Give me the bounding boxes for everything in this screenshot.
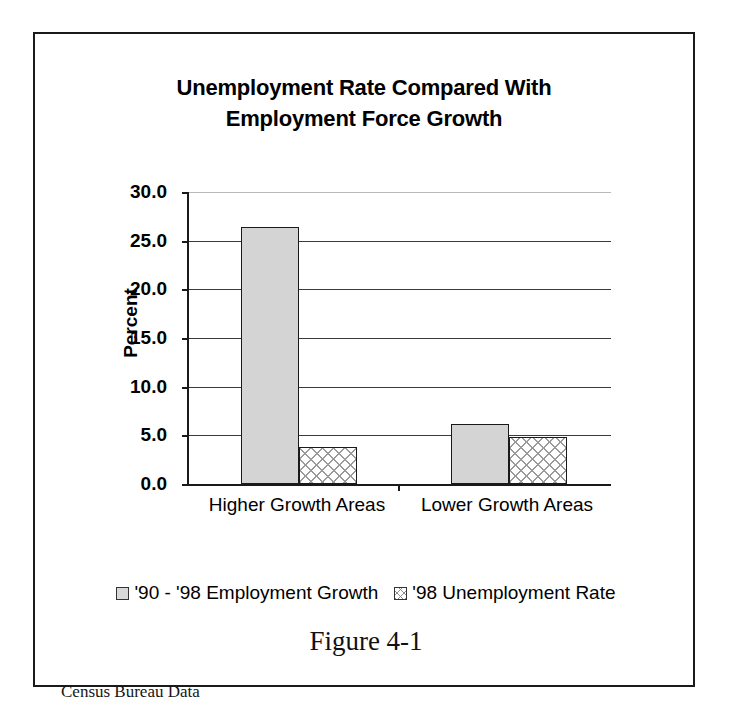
bar-higher-growth-employment[interactable] xyxy=(241,227,299,484)
x-tickmark-center xyxy=(398,484,400,491)
y-tick-label: 5.0 xyxy=(105,424,167,446)
x-axis-category-labels: Higher Growth Areas Lower Growth Areas xyxy=(187,494,611,524)
bar-higher-growth-unemployment[interactable] xyxy=(299,447,357,484)
figure-frame: Unemployment Rate Compared With Employme… xyxy=(33,32,695,687)
legend-swatch-icon xyxy=(116,587,129,600)
figure-caption: Figure 4-1 xyxy=(35,626,697,657)
y-tick-label: 25.0 xyxy=(105,230,167,252)
y-tick-label: 15.0 xyxy=(105,327,167,349)
source-note: Census Bureau Data xyxy=(61,682,200,702)
bar-lower-growth-unemployment[interactable] xyxy=(509,437,567,484)
y-tickmark xyxy=(182,387,189,389)
legend-entry-unemployment-rate[interactable]: '98 Unemployment Rate xyxy=(394,582,615,604)
x-category-label-lower: Lower Growth Areas xyxy=(421,494,593,516)
plot-wrapper: Percent 30.0 25.0 20.0 15.0 10.0 5.0 0.0 xyxy=(35,34,697,689)
gridline-30 xyxy=(189,192,611,193)
plot-area xyxy=(187,192,611,486)
bar-lower-growth-employment[interactable] xyxy=(451,424,509,484)
legend-label: '98 Unemployment Rate xyxy=(412,582,615,604)
legend-entry-employment-growth[interactable]: '90 - '98 Employment Growth xyxy=(116,582,378,604)
x-category-label-higher: Higher Growth Areas xyxy=(209,494,385,516)
y-tick-label: 0.0 xyxy=(105,473,167,495)
y-tickmark xyxy=(182,435,189,437)
legend-swatch-icon xyxy=(394,587,407,600)
y-axis-tick-labels: 30.0 25.0 20.0 15.0 10.0 5.0 0.0 xyxy=(105,182,167,474)
y-tickmark xyxy=(182,484,189,486)
y-tickmark xyxy=(182,192,189,194)
y-tick-label: 30.0 xyxy=(105,181,167,203)
chart-legend: '90 - '98 Employment Growth '98 Unemploy… xyxy=(35,582,697,604)
y-tick-label: 20.0 xyxy=(105,278,167,300)
y-tickmark xyxy=(182,289,189,291)
legend-label: '90 - '98 Employment Growth xyxy=(134,582,378,604)
y-tickmark xyxy=(182,241,189,243)
y-tick-label: 10.0 xyxy=(105,376,167,398)
y-tickmark xyxy=(182,338,189,340)
